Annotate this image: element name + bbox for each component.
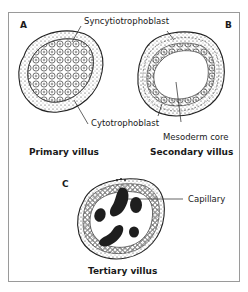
panel-letter-a: A (20, 20, 27, 30)
label-capillary: Capillary (188, 194, 225, 204)
caption-tertiary-villus: Tertiary villus (88, 266, 157, 277)
label-mesoderm-core: Mesoderm core (163, 132, 229, 142)
caption-secondary-villus: Secondary villus (150, 147, 233, 158)
panel-letter-b: B (225, 20, 232, 30)
caption-primary-villus: Primary villus (29, 147, 99, 158)
capillary-2 (130, 197, 142, 213)
label-syncytiotrophoblast: Syncytiotrophoblast (84, 16, 169, 26)
panel-letter-c: C (62, 179, 69, 189)
secondary-villus-drawing (138, 31, 224, 122)
label-cytotrophoblast: Cytotrophoblast (91, 118, 159, 128)
capillary-5 (129, 227, 139, 238)
villus-illustrations (0, 0, 248, 292)
primary-villus-drawing (19, 26, 103, 124)
tertiary-villus-drawing (78, 178, 183, 259)
